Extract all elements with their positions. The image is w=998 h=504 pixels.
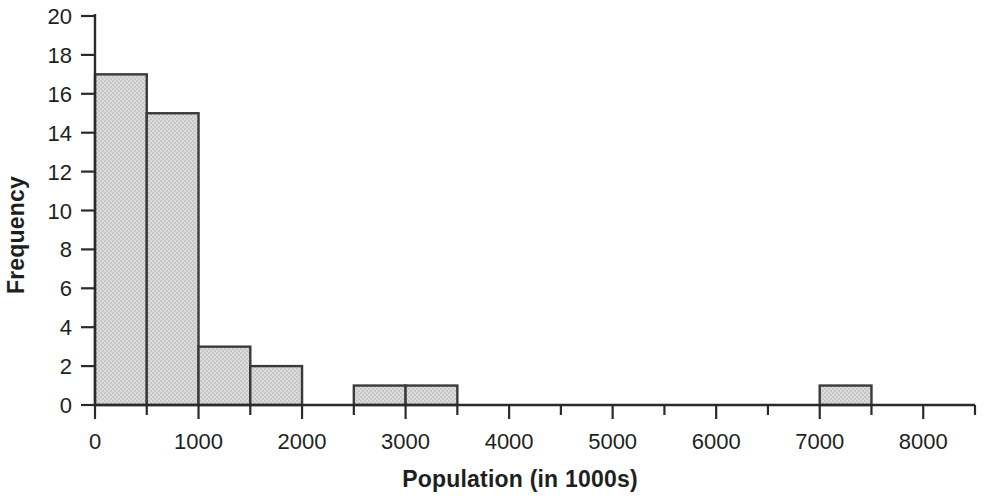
histogram-bar bbox=[354, 386, 406, 405]
y-tick-label: 18 bbox=[48, 43, 72, 68]
x-tick-label: 2000 bbox=[278, 429, 327, 454]
y-tick-label: 0 bbox=[60, 393, 72, 418]
x-tick-label: 1000 bbox=[174, 429, 223, 454]
chart-canvas: 02468101214161820 0100020003000400050006… bbox=[0, 0, 998, 504]
x-tick-label: 4000 bbox=[485, 429, 534, 454]
y-tick-label: 20 bbox=[48, 4, 72, 29]
y-axis-title: Frequency bbox=[3, 176, 29, 294]
y-tick-label: 6 bbox=[60, 276, 72, 301]
histogram-bar bbox=[147, 113, 199, 405]
x-tick-label: 6000 bbox=[692, 429, 741, 454]
histogram-bar bbox=[199, 347, 251, 405]
x-tick-label: 5000 bbox=[588, 429, 637, 454]
y-tick-label: 4 bbox=[60, 315, 72, 340]
y-tick-label: 10 bbox=[48, 199, 72, 224]
histogram-bar bbox=[95, 74, 147, 405]
y-tick-label: 14 bbox=[48, 121, 72, 146]
histogram-figure: 02468101214161820 0100020003000400050006… bbox=[0, 0, 998, 504]
x-tick-label: 3000 bbox=[381, 429, 430, 454]
y-tick-label: 8 bbox=[60, 237, 72, 262]
x-tick-label: 0 bbox=[89, 429, 101, 454]
y-tick-label: 12 bbox=[48, 160, 72, 185]
x-axis-tick-labels: 010002000300040005000600070008000 bbox=[89, 429, 948, 454]
y-tick-label: 2 bbox=[60, 354, 72, 379]
x-axis-title: Population (in 1000s) bbox=[402, 466, 638, 492]
x-tick-label: 8000 bbox=[899, 429, 948, 454]
histogram-bar bbox=[406, 386, 458, 405]
x-tick-label: 7000 bbox=[795, 429, 844, 454]
histogram-bar bbox=[820, 386, 872, 405]
histogram-bar bbox=[250, 366, 302, 405]
y-tick-label: 16 bbox=[48, 82, 72, 107]
